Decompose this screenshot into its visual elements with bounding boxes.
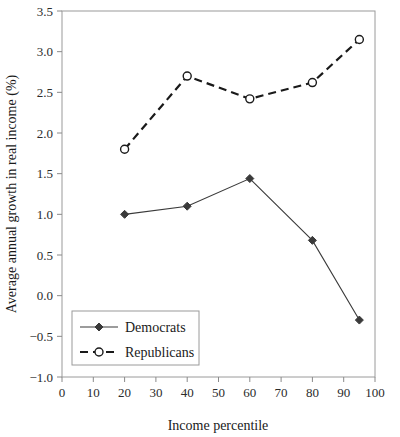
data-point-marker xyxy=(308,79,316,87)
x-tick-label: 20 xyxy=(118,385,131,400)
y-tick-label: 1.5 xyxy=(37,166,53,181)
chart-legend: DemocratsRepublicans xyxy=(72,311,199,365)
line-chart: −1.0−0.50.00.51.01.52.02.53.03.5 0102030… xyxy=(0,0,400,437)
y-tick-label: 3.5 xyxy=(37,4,53,19)
x-tick-label: 70 xyxy=(275,385,288,400)
y-tick-label: 3.0 xyxy=(37,44,53,59)
chart-figure: −1.0−0.50.00.51.01.52.02.53.03.5 0102030… xyxy=(0,0,400,437)
legend-marker xyxy=(95,348,103,356)
y-tick-label: −1.0 xyxy=(29,370,53,385)
x-tick-label: 40 xyxy=(181,385,194,400)
legend-label: Republicans xyxy=(125,345,194,360)
x-tick-label: 100 xyxy=(365,385,385,400)
y-tick-label: −0.5 xyxy=(29,329,53,344)
y-axis-title: Average annual growth in real income (%) xyxy=(4,74,20,313)
y-tick-label: 2.0 xyxy=(37,126,53,141)
y-tick-label: 0.5 xyxy=(37,248,53,263)
data-point-marker xyxy=(355,35,363,43)
legend-label: Democrats xyxy=(125,320,186,335)
x-axis-title: Income percentile xyxy=(168,418,269,433)
x-tick-label: 80 xyxy=(306,385,319,400)
y-axis-ticks: −1.0−0.50.00.51.01.52.02.53.03.5 xyxy=(29,4,62,385)
x-tick-label: 60 xyxy=(243,385,256,400)
x-tick-label: 90 xyxy=(337,385,350,400)
y-tick-label: 2.5 xyxy=(37,85,53,100)
data-point-marker xyxy=(246,95,254,103)
y-tick-label: 0.0 xyxy=(37,288,53,303)
x-tick-label: 50 xyxy=(212,385,225,400)
x-tick-label: 10 xyxy=(87,385,100,400)
x-tick-label: 0 xyxy=(59,385,66,400)
data-point-marker xyxy=(121,145,129,153)
data-point-marker xyxy=(183,72,191,80)
x-tick-label: 30 xyxy=(149,385,162,400)
y-tick-label: 1.0 xyxy=(37,207,53,222)
x-axis-ticks: 0102030405060708090100 xyxy=(59,377,385,400)
